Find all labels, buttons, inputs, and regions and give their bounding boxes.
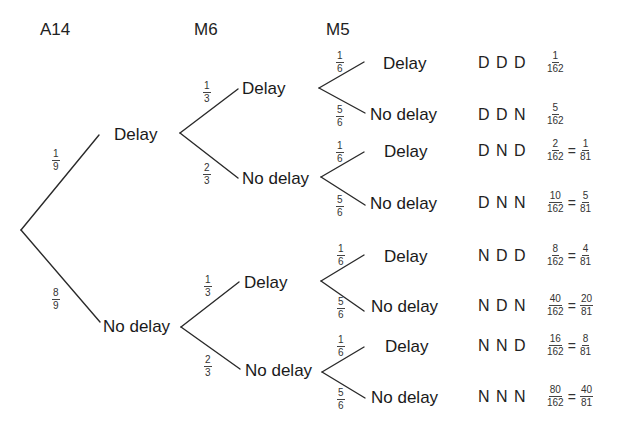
node-d-m6-delay: Delay bbox=[242, 80, 285, 97]
outcome-sequence: D D N bbox=[478, 107, 527, 123]
outcome-probability: 10162 = 581 bbox=[547, 191, 591, 214]
header-m6: M6 bbox=[194, 20, 218, 40]
outcome-probability: 80162 = 4081 bbox=[547, 385, 593, 408]
prob-ddd: 16 bbox=[336, 51, 344, 74]
node-a14-nodelay: No delay bbox=[103, 318, 170, 335]
prob-d-m6-nodelay: 23 bbox=[203, 163, 211, 186]
outcome-sequence: D N D bbox=[478, 143, 527, 159]
node-ndn: No delay bbox=[371, 298, 438, 315]
header-m5: M5 bbox=[326, 20, 350, 40]
outcome-probability: 2162 = 181 bbox=[547, 139, 591, 162]
header-a14: A14 bbox=[40, 20, 70, 40]
node-ddd: Delay bbox=[383, 55, 426, 72]
prob-d-m6-delay: 13 bbox=[203, 81, 211, 104]
node-d-m6-nodelay: No delay bbox=[242, 170, 309, 187]
node-dnn: No delay bbox=[370, 195, 437, 212]
outcome-probability: 1162 bbox=[547, 51, 564, 74]
outcome-sequence: N N N bbox=[478, 389, 527, 405]
prob-nnd: 16 bbox=[337, 335, 345, 358]
prob-ndd: 16 bbox=[337, 244, 345, 267]
outcome-sequence: N D N bbox=[478, 298, 527, 314]
prob-dnn: 56 bbox=[336, 195, 344, 218]
node-nnn: No delay bbox=[371, 389, 438, 406]
branch-a14-delay bbox=[21, 135, 99, 230]
outcome-sequence: D N N bbox=[478, 195, 527, 211]
outcome-sequence: N D D bbox=[478, 248, 527, 264]
outcome-sequence: D D D bbox=[478, 55, 527, 71]
prob-a14-delay: 19 bbox=[52, 149, 60, 172]
outcome-probability: 8162 = 481 bbox=[547, 244, 591, 267]
node-n-m6-delay: Delay bbox=[244, 274, 287, 291]
prob-a14-nodelay: 89 bbox=[52, 288, 60, 311]
node-a14-delay: Delay bbox=[114, 126, 157, 143]
outcome-probability: 5162 bbox=[547, 103, 564, 126]
prob-nnn: 56 bbox=[337, 388, 345, 411]
prob-ndn: 56 bbox=[337, 297, 345, 320]
node-dnd: Delay bbox=[384, 143, 427, 160]
outcome-sequence: N N D bbox=[478, 338, 527, 354]
node-ddn: No delay bbox=[370, 106, 437, 123]
outcome-probability: 40162 = 2081 bbox=[547, 294, 593, 317]
prob-dnd: 16 bbox=[336, 141, 344, 164]
node-n-m6-nodelay: No delay bbox=[245, 362, 312, 379]
prob-n-m6-delay: 13 bbox=[204, 275, 212, 298]
node-nnd: Delay bbox=[385, 338, 428, 355]
outcome-probability: 16162 = 881 bbox=[547, 334, 591, 357]
node-ndd: Delay bbox=[384, 248, 427, 265]
branch-a14-nodelay bbox=[21, 230, 100, 322]
prob-ddn: 56 bbox=[336, 105, 344, 128]
prob-n-m6-nodelay: 23 bbox=[204, 355, 212, 378]
